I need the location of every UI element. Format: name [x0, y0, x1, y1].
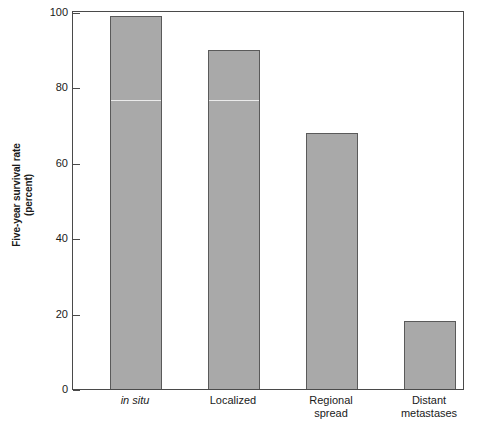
- scan-artifact-line: [209, 100, 259, 101]
- y-axis-tick-labels: 020406080100: [38, 0, 68, 432]
- x-axis-category-label: in situ: [86, 394, 184, 407]
- y-axis-tick-mark: [73, 88, 80, 89]
- y-axis-tick-mark: [73, 239, 80, 240]
- x-axis-category-label: Localized: [184, 394, 282, 407]
- y-axis-tick-label: 80: [40, 82, 68, 93]
- y-axis-tick-label: 0: [40, 384, 68, 395]
- y-axis-title-line2: (percent): [23, 143, 35, 246]
- y-axis-tick-mark: [73, 13, 80, 14]
- y-axis-title-text: Five-year survival rate (percent): [11, 143, 35, 246]
- scan-artifact-line: [111, 100, 161, 101]
- y-axis-tick-mark: [73, 164, 80, 165]
- y-axis-tick-label: 40: [40, 233, 68, 244]
- bar: [404, 321, 456, 389]
- y-axis-tick-label: 60: [40, 158, 68, 169]
- bar-chart-figure: Five-year survival rate (percent) 020406…: [0, 0, 480, 432]
- y-axis-tick-label: 100: [40, 7, 68, 18]
- x-axis-category-label-line: Regional: [309, 394, 352, 406]
- x-axis-category-label: Regionalspread: [282, 394, 380, 420]
- x-axis-category-label-line: Distant: [412, 394, 446, 406]
- y-axis-tick-mark: [73, 390, 80, 391]
- bar: [306, 133, 358, 389]
- bar: [110, 16, 162, 389]
- x-axis-category-label-line: in situ: [121, 394, 150, 406]
- plot-area: [72, 11, 464, 390]
- x-axis-category-label: Distantmetastases: [380, 394, 478, 420]
- y-axis-tick-label: 20: [40, 309, 68, 320]
- y-axis-title-line1: Five-year survival rate: [11, 143, 22, 246]
- x-axis-category-labels: in situLocalizedRegionalspreadDistantmet…: [72, 394, 464, 432]
- y-axis-tick-mark: [73, 315, 80, 316]
- x-axis-category-label-line: Localized: [210, 394, 256, 406]
- x-axis-category-label-line: metastases: [380, 407, 478, 420]
- x-axis-category-label-line: spread: [282, 407, 380, 420]
